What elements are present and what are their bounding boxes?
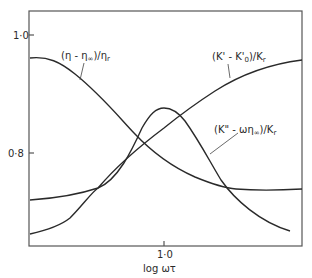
- label-eta: (η - η∞)/ηr: [61, 50, 110, 63]
- curve-kprime: [30, 60, 302, 234]
- chart: 1·0 0·8 1·0 log ωτ (η - η∞)/ηr (K' - K'0…: [0, 0, 312, 278]
- x-axis-label: log ωτ: [143, 263, 176, 274]
- y-tick-label-1-0: 1·0: [13, 30, 29, 41]
- x-tick-label-1-0: 1·0: [157, 249, 173, 260]
- leader-kprime: [228, 64, 230, 78]
- leader-eta: [80, 63, 84, 80]
- label-kdouble: (K" - ωη∞)/Kr: [214, 124, 276, 137]
- leader-kdouble: [210, 133, 238, 154]
- label-kprime: (K' - K'0)/Kr: [212, 51, 266, 64]
- y-tick-label-0-8: 0·8: [8, 148, 24, 159]
